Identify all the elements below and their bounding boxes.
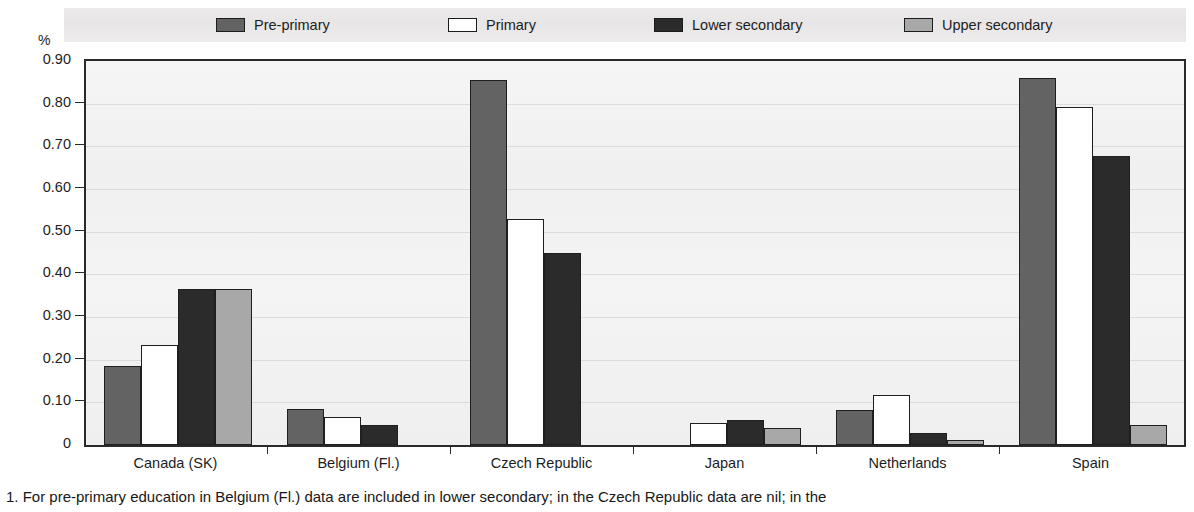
bar bbox=[836, 410, 873, 445]
bar bbox=[287, 409, 324, 445]
y-axis-tick-label: 0.30 bbox=[43, 307, 71, 323]
y-axis-tick-label: 0.10 bbox=[43, 392, 71, 408]
x-axis-tick bbox=[816, 447, 817, 454]
legend: Pre-primary Primary Lower secondary Uppe… bbox=[64, 8, 1186, 42]
y-axis-tick bbox=[75, 272, 84, 273]
bar bbox=[141, 345, 178, 445]
bar bbox=[910, 433, 947, 445]
y-axis-tick bbox=[75, 400, 84, 401]
legend-swatch-lower-secondary bbox=[654, 18, 683, 32]
bar bbox=[947, 440, 984, 445]
bar bbox=[873, 395, 910, 445]
bar bbox=[1019, 78, 1056, 445]
legend-item-primary: Primary bbox=[448, 16, 536, 34]
chart: 0.900.800.700.600.500.400.300.200.100Can… bbox=[84, 59, 1186, 447]
y-axis-tick-label: 0.70 bbox=[43, 136, 71, 152]
bar bbox=[1093, 156, 1130, 445]
bar bbox=[1130, 425, 1167, 445]
y-axis-tick-label: 0.40 bbox=[43, 264, 71, 280]
x-axis-tick bbox=[999, 447, 1000, 454]
bar bbox=[544, 253, 581, 445]
x-axis-tick-label: Belgium (Fl.) bbox=[317, 455, 399, 471]
legend-item-lower-secondary: Lower secondary bbox=[654, 16, 802, 34]
plot-area bbox=[84, 59, 1186, 447]
y-axis-tick bbox=[75, 230, 84, 231]
y-axis-tick-label: 0 bbox=[63, 435, 71, 451]
bar bbox=[215, 289, 252, 445]
y-axis-tick bbox=[75, 315, 84, 316]
y-axis-tick bbox=[75, 102, 84, 103]
legend-swatch-pre-primary bbox=[216, 18, 245, 32]
bar bbox=[727, 420, 764, 445]
y-axis-tick-label: 0.60 bbox=[43, 179, 71, 195]
legend-label-primary: Primary bbox=[486, 18, 536, 33]
bar bbox=[178, 289, 215, 445]
bar bbox=[470, 80, 507, 445]
y-axis-tick-label: 0.50 bbox=[43, 222, 71, 238]
x-axis-tick-label: Netherlands bbox=[868, 455, 946, 471]
legend-label-upper-secondary: Upper secondary bbox=[942, 18, 1052, 33]
y-axis-unit-label: % bbox=[38, 32, 50, 48]
bar bbox=[361, 425, 398, 445]
y-axis-tick bbox=[75, 144, 84, 145]
x-axis-tick-label: Spain bbox=[1072, 455, 1109, 471]
x-axis-tick bbox=[267, 447, 268, 454]
legend-label-lower-secondary: Lower secondary bbox=[692, 18, 802, 33]
x-axis-tick-label: Czech Republic bbox=[491, 455, 593, 471]
y-axis-tick bbox=[75, 187, 84, 188]
y-axis-tick-label: 0.80 bbox=[43, 94, 71, 110]
legend-item-pre-primary: Pre-primary bbox=[216, 16, 330, 34]
legend-label-pre-primary: Pre-primary bbox=[254, 18, 330, 33]
footnote: 1. For pre-primary education in Belgium … bbox=[6, 487, 1192, 507]
y-axis-tick-label: 0.90 bbox=[43, 51, 71, 67]
x-axis-tick bbox=[450, 447, 451, 454]
legend-swatch-primary bbox=[448, 18, 477, 32]
bar bbox=[324, 417, 361, 445]
x-axis-tick-label: Japan bbox=[705, 455, 745, 471]
bar bbox=[690, 423, 727, 445]
bar bbox=[764, 428, 801, 445]
bar bbox=[507, 219, 544, 445]
x-axis-tick bbox=[633, 447, 634, 454]
bar bbox=[1056, 107, 1093, 445]
y-axis-tick-label: 0.20 bbox=[43, 350, 71, 366]
bar bbox=[104, 366, 141, 445]
y-axis-tick bbox=[75, 358, 84, 359]
legend-swatch-upper-secondary bbox=[904, 18, 933, 32]
legend-item-upper-secondary: Upper secondary bbox=[904, 16, 1052, 34]
x-axis-tick-label: Canada (SK) bbox=[134, 455, 218, 471]
